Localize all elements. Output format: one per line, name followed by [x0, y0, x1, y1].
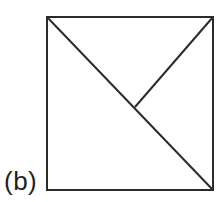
- diagonal-topleft-to-bottomright: [47, 17, 213, 190]
- figure-label: (b): [4, 166, 37, 196]
- segment-topright-to-center: [135, 17, 213, 107]
- figure-b-panel: (b): [0, 0, 221, 202]
